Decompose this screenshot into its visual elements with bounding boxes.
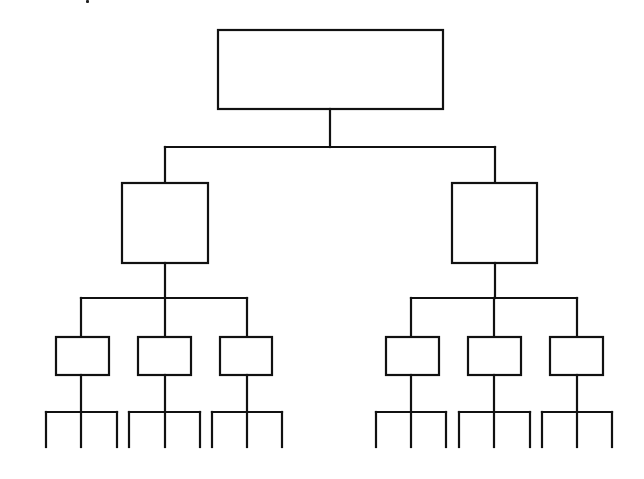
level2-node-left xyxy=(122,183,208,263)
level3-node-3 xyxy=(220,337,272,375)
leaf-stubs-node-3 xyxy=(212,375,282,447)
level2-node-right xyxy=(452,183,537,263)
leaf-stubs-node-1 xyxy=(46,375,117,447)
leaf-stubs-node-4 xyxy=(376,375,446,447)
root-node xyxy=(218,30,443,109)
leaf-stubs-node-6 xyxy=(542,375,612,447)
leaf-stubs-node-5 xyxy=(459,375,530,447)
level3-node-6 xyxy=(550,337,603,375)
hierarchy-diagram xyxy=(0,0,644,479)
level3-node-2 xyxy=(138,337,191,375)
level3-node-5 xyxy=(468,337,521,375)
level3-node-4 xyxy=(386,337,439,375)
leaf-stubs-node-2 xyxy=(129,375,200,447)
level3-node-1 xyxy=(56,337,109,375)
